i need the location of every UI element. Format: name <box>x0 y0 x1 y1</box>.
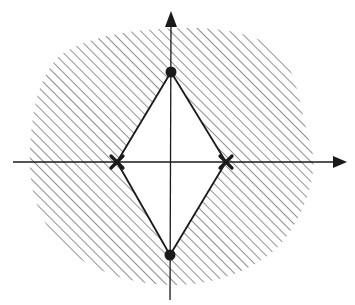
horizontal-axis-arrow-icon <box>333 156 347 168</box>
pole-zero-diagram <box>0 0 355 305</box>
zero-upper-dot-icon <box>166 67 177 78</box>
zero-lower-dot-icon <box>165 250 176 261</box>
vertical-axis-arrow-icon <box>165 11 177 27</box>
